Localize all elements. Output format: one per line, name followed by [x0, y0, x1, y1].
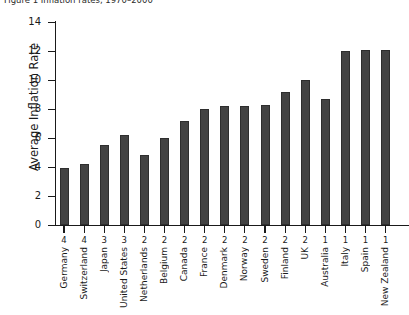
x-category-label: Switzerland: [80, 247, 89, 300]
y-tick-label: 2: [17, 191, 41, 201]
x-axis-category: 3Japan: [93, 236, 115, 315]
bar: [261, 105, 270, 225]
x-group-number: 2: [154, 236, 176, 245]
x-tick-mark: [385, 226, 386, 233]
x-axis-category: 1New Zealand: [375, 236, 397, 315]
x-tick-mark: [124, 226, 125, 233]
x-tick-mark: [84, 226, 85, 233]
x-group-number: 3: [93, 236, 115, 245]
bar: [140, 155, 149, 225]
bar: [341, 51, 350, 225]
x-tick-mark: [164, 226, 165, 233]
x-axis-category: 2Netherlands: [133, 236, 155, 315]
y-tick-label: 10: [17, 75, 41, 85]
bar: [160, 138, 169, 225]
bar: [100, 145, 109, 225]
x-category-label: Australia: [321, 247, 330, 287]
bar: [80, 164, 89, 225]
y-tick-label: 0: [17, 220, 41, 230]
bar: [281, 92, 290, 225]
y-axis-line: [55, 21, 56, 226]
y-tick-mark: [48, 109, 55, 110]
x-category-label: Sweden: [261, 247, 270, 283]
x-category-label: New Zealand: [381, 247, 390, 306]
x-axis-category: 2France: [194, 236, 216, 315]
x-tick-mark: [224, 226, 225, 233]
x-tick-mark: [104, 226, 105, 233]
x-axis-category: 1Spain: [355, 236, 377, 315]
x-tick-mark: [264, 226, 265, 233]
bar: [120, 135, 129, 225]
x-tick-mark: [63, 226, 64, 233]
x-category-label: Spain: [361, 247, 370, 272]
x-axis-category: 2Norway: [234, 236, 256, 315]
y-tick-mark: [48, 22, 55, 23]
x-group-number: 2: [194, 236, 216, 245]
bar: [180, 121, 189, 225]
y-tick-label: 4: [17, 162, 41, 172]
x-axis-category: 2Finland: [274, 236, 296, 315]
x-group-number: 2: [254, 236, 276, 245]
x-tick-mark: [365, 226, 366, 233]
y-tick-label: 6: [17, 133, 41, 143]
x-axis-category: 4Germany: [53, 236, 75, 315]
x-category-label: Finland: [281, 247, 290, 279]
x-group-number: 1: [334, 236, 356, 245]
x-axis-category: 2Belgium: [154, 236, 176, 315]
x-group-number: 1: [355, 236, 377, 245]
y-tick-label: 12: [17, 46, 41, 56]
x-tick-mark: [345, 226, 346, 233]
x-category-label: Germany: [60, 247, 69, 288]
x-category-label: Japan: [100, 247, 109, 272]
x-axis-line: [55, 225, 409, 226]
bar: [240, 106, 249, 225]
bar: [361, 50, 370, 225]
y-tick-label: 8: [17, 104, 41, 114]
x-group-number: 2: [234, 236, 256, 245]
x-category-label: UK: [301, 247, 310, 260]
x-tick-mark: [325, 226, 326, 233]
x-category-label: Norway: [240, 247, 249, 281]
x-tick-mark: [184, 226, 185, 233]
x-axis-category: 2Denmark: [214, 236, 236, 315]
x-axis-category: 3United States: [113, 236, 135, 315]
x-axis-category: 1Australia: [314, 236, 336, 315]
x-group-number: 2: [274, 236, 296, 245]
x-tick-mark: [244, 226, 245, 233]
bar: [220, 106, 229, 225]
x-axis-category: 2UK: [294, 236, 316, 315]
x-group-number: 2: [174, 236, 196, 245]
bar: [200, 109, 209, 225]
y-tick-mark: [48, 51, 55, 52]
bar: [381, 50, 390, 225]
x-axis-category: 2Sweden: [254, 236, 276, 315]
bar: [321, 99, 330, 225]
x-category-label: Denmark: [220, 247, 229, 288]
x-tick-mark: [305, 226, 306, 233]
x-category-label: Italy: [341, 247, 350, 267]
x-group-number: 4: [73, 236, 95, 245]
x-group-number: 1: [375, 236, 397, 245]
x-category-label: Canada: [180, 247, 189, 281]
y-tick-label: 14: [17, 17, 41, 27]
x-group-number: 1: [314, 236, 336, 245]
y-tick-mark: [48, 80, 55, 81]
y-tick-mark: [48, 196, 55, 197]
x-group-number: 3: [113, 236, 135, 245]
x-category-label: Netherlands: [140, 247, 149, 302]
x-axis-category: 1Italy: [334, 236, 356, 315]
x-axis-category: 2Canada: [174, 236, 196, 315]
bar: [301, 80, 310, 225]
x-group-number: 2: [214, 236, 236, 245]
inflation-bar-chart: Figure 1 Inflation rates, 1970–2000 Aver…: [0, 0, 409, 315]
y-tick-mark: [48, 138, 55, 139]
x-category-label: United States: [120, 247, 129, 308]
y-tick-mark: [48, 225, 55, 226]
x-category-label: France: [200, 247, 209, 277]
y-tick-mark: [48, 167, 55, 168]
figure-caption: Figure 1 Inflation rates, 1970–2000: [4, 0, 234, 6]
bar: [60, 168, 69, 225]
x-axis-category: 4Switzerland: [73, 236, 95, 315]
x-tick-mark: [204, 226, 205, 233]
x-group-number: 2: [133, 236, 155, 245]
